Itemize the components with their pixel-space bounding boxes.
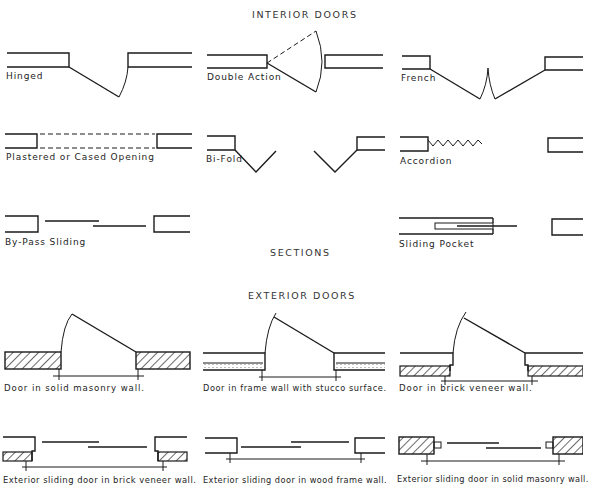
heading-sections: SECTIONS: [270, 247, 331, 258]
label-door-solid-masonry: Door in solid masonry wall.: [4, 383, 145, 393]
heading-interior-doors: INTERIOR DOORS: [252, 9, 358, 20]
label-plastered-cased: Plastered or Cased Opening: [6, 152, 155, 162]
label-french: French: [401, 73, 436, 83]
label-bi-fold: Bi-Fold: [206, 154, 243, 164]
symbol-door-solid-masonry: [5, 314, 190, 380]
label-double-action: Double Action: [207, 72, 282, 82]
label-accordion: Accordion: [400, 156, 452, 166]
symbol-door-frame-stucco: [203, 313, 385, 381]
label-sliding-brick-veneer: Exterior sliding door in brick veneer wa…: [3, 475, 196, 485]
label-sliding-solid-masonry: Exterior sliding door in solid masonry w…: [397, 474, 589, 484]
symbol-door-brick-veneer: [400, 312, 583, 385]
label-hinged: Hinged: [6, 71, 43, 81]
symbol-sliding-wood-frame: [205, 438, 385, 463]
label-sliding-pocket: Sliding Pocket: [399, 239, 474, 249]
label-sliding-wood-frame: Exterior sliding door in wood frame wall…: [203, 475, 387, 485]
symbol-accordion: [400, 137, 583, 152]
symbol-sliding-pocket: [399, 218, 583, 235]
symbol-sliding-brick-veneer: [3, 437, 187, 471]
symbol-plastered-cased: [5, 134, 192, 148]
label-by-pass-sliding: By-Pass Sliding: [5, 237, 86, 247]
symbol-double-action: [207, 31, 383, 92]
symbol-sliding-solid-masonry: [399, 437, 583, 465]
heading-exterior-doors: EXTERIOR DOORS: [248, 290, 356, 301]
symbol-by-pass-sliding: [5, 216, 190, 232]
label-door-brick-veneer: Door in brick veneer wall.: [399, 383, 533, 393]
label-door-frame-stucco: Door in frame wall with stucco surface.: [203, 383, 387, 393]
